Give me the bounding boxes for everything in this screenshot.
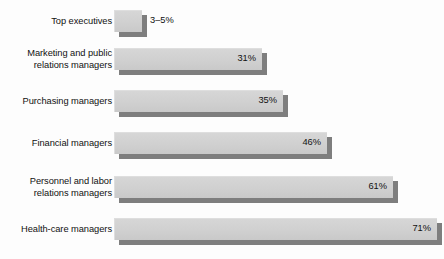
- bar: [114, 10, 148, 38]
- bar-face: [114, 10, 142, 32]
- bar-row: Financial managers46%: [0, 132, 444, 160]
- bar-face: [114, 176, 393, 198]
- bar-category-label: Marketing and public relations managers: [0, 48, 112, 71]
- bar-category-label: Personnel and labor relations managers: [0, 176, 112, 199]
- bar-value-label: 71%: [412, 223, 431, 233]
- bar-value-label: 31%: [237, 53, 256, 63]
- bar-chart: Top executives3–5%Marketing and public r…: [0, 0, 444, 259]
- bar-face: [114, 132, 327, 154]
- bar-row: Top executives3–5%: [0, 10, 444, 38]
- bar: [114, 176, 399, 204]
- bar-row: Personnel and labor relations managers61…: [0, 176, 444, 204]
- bar-face: [114, 218, 437, 240]
- bar: [114, 218, 443, 246]
- bar-value-label: 61%: [368, 181, 387, 191]
- bar-value-label: 35%: [258, 95, 277, 105]
- bar-category-label: Top executives: [0, 16, 112, 28]
- bar-category-label: Purchasing managers: [0, 96, 112, 108]
- bar-value-label: 46%: [302, 137, 321, 147]
- bar-category-label: Financial managers: [0, 138, 112, 150]
- bar: [114, 132, 333, 160]
- bar-row: Purchasing managers35%: [0, 90, 444, 118]
- bar-row: Marketing and public relations managers3…: [0, 48, 444, 76]
- bar-category-label: Health-care managers: [0, 224, 112, 236]
- bar-value-label: 3–5%: [150, 15, 174, 25]
- bar-row: Health-care managers71%: [0, 218, 444, 246]
